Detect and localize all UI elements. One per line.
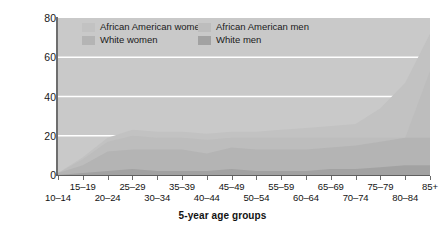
x-tick-mark (430, 176, 431, 180)
legend-item: African American women (82, 22, 205, 32)
x-tick-mark (356, 176, 357, 180)
x-tick-mark (405, 176, 406, 180)
x-tick-label: 40–44 (187, 192, 227, 203)
x-tick-mark (157, 176, 158, 180)
x-tick-label: 35–39 (162, 181, 202, 192)
x-tick-mark (182, 176, 183, 180)
y-tick-label: 40 (22, 92, 56, 102)
x-tick-label: 30–34 (137, 192, 177, 203)
x-tick-label: 55–59 (261, 181, 301, 192)
x-tick-mark (256, 176, 257, 180)
legend-item: White women (82, 35, 158, 45)
x-tick-mark (83, 176, 84, 180)
x-tick-mark (306, 176, 307, 180)
legend-item: White men (198, 35, 261, 45)
chart-legend: African American womenAfrican American m… (82, 22, 332, 56)
y-tick-label: 0 (22, 170, 56, 180)
x-tick-mark (281, 176, 282, 180)
x-tick-mark (380, 176, 381, 180)
x-tick-label: 10–14 (38, 192, 78, 203)
legend-swatch (198, 36, 211, 45)
legend-label: White men (216, 35, 261, 45)
x-tick-mark (58, 176, 59, 180)
x-tick-label: 70–74 (336, 192, 376, 203)
legend-swatch (198, 23, 211, 32)
x-tick-label: 15–19 (63, 181, 103, 192)
x-axis-title: 5-year age groups (0, 210, 445, 221)
legend-label: African American men (216, 22, 309, 32)
legend-item: African American men (198, 22, 309, 32)
x-tick-label: 45–49 (212, 181, 252, 192)
x-tick-label: 80–84 (385, 192, 425, 203)
y-tick-label: 60 (22, 52, 56, 62)
x-tick-mark (207, 176, 208, 180)
x-tick-label: 85+ (410, 181, 445, 192)
x-tick-label: 20–24 (88, 192, 128, 203)
x-axis-tick-labels: 10–1415–1920–2425–2930–3435–3940–4445–49… (0, 181, 445, 209)
x-tick-mark (108, 176, 109, 180)
x-tick-label: 25–29 (112, 181, 152, 192)
x-tick-mark (331, 176, 332, 180)
chart-figure: Rates per 100,000 020406080 10–1415–1920… (0, 0, 445, 246)
x-tick-label: 75–79 (360, 181, 400, 192)
x-tick-label: 60–64 (286, 192, 326, 203)
x-tick-mark (232, 176, 233, 180)
legend-label: White women (100, 35, 158, 45)
legend-label: African American women (100, 22, 205, 32)
y-tick-label: 20 (22, 131, 56, 141)
x-tick-label: 50–54 (236, 192, 276, 203)
x-tick-label: 65–69 (311, 181, 351, 192)
x-tick-mark (132, 176, 133, 180)
y-tick-label: 80 (22, 13, 56, 23)
legend-swatch (82, 23, 95, 32)
legend-swatch (82, 36, 95, 45)
